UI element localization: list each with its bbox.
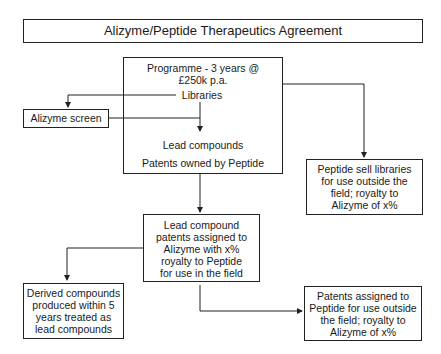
text-line: for use in the field: [144, 267, 259, 279]
text-line: Peptide sell libraries: [307, 163, 422, 175]
patents-peptide-box: Patents assigned to Peptide for use outs…: [304, 286, 422, 341]
alizyme-screen-label: Alizyme screen: [30, 112, 101, 124]
lead-compounds-label: Lead compounds: [123, 139, 283, 151]
text-line: Derived compounds: [24, 287, 123, 299]
diagram-title: Alizyme/Peptide Therapeutics Agreement: [104, 23, 342, 38]
text-line: field; royalty to: [307, 187, 422, 199]
text-line: Alizyme of x%: [305, 326, 421, 338]
programme-line1: Programme - 3 years @: [123, 62, 283, 74]
text-line: Alizyme of x%: [307, 199, 422, 211]
text-line: produced within 5: [24, 299, 123, 311]
text-line: Peptide for use outside: [305, 302, 421, 314]
derived-box: Derived compounds produced within 5 year…: [23, 283, 124, 339]
text-line: lead compounds: [24, 323, 123, 335]
alizyme-screen-box: Alizyme screen: [23, 109, 109, 128]
text-line: Alizyme with x%: [144, 243, 259, 255]
text-line: for use outside the: [307, 175, 422, 187]
programme-line2: £250k p.a.: [123, 74, 283, 86]
title-box: Alizyme/Peptide Therapeutics Agreement: [23, 19, 423, 43]
patents-owned-label: Patents owned by Peptide: [123, 157, 283, 169]
peptide-sell-box: Peptide sell libraries for use outside t…: [306, 159, 423, 215]
text-line: years treated as: [24, 311, 123, 323]
lead-assigned-box: Lead compound patents assigned to Alizym…: [143, 214, 260, 282]
text-line: royalty to Peptide: [144, 255, 259, 267]
text-line: Lead compound: [144, 219, 259, 231]
text-line: the field; royalty to: [305, 314, 421, 326]
text-line: Patents assigned to: [305, 290, 421, 302]
text-line: patents assigned to: [144, 231, 259, 243]
libraries-label: Libraries: [176, 89, 228, 101]
